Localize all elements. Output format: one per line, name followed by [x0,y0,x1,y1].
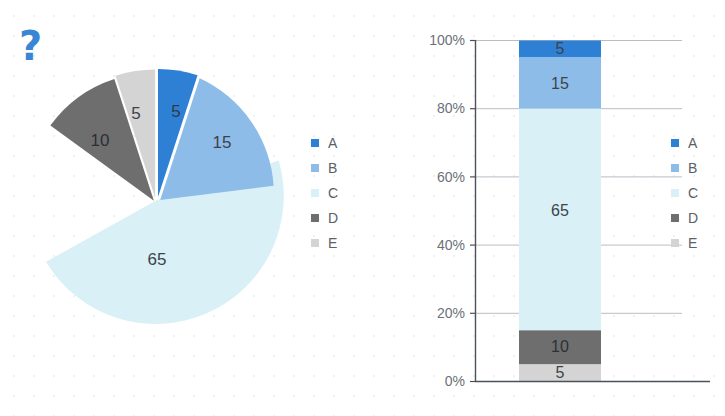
pie-value-D: 10 [91,131,110,151]
bar-value-B: 15 [551,75,569,93]
legend-swatch-E [671,239,679,247]
legend-swatch-A [671,139,679,147]
ytick-100: 100% [410,32,465,48]
legend-swatch-B [671,164,679,172]
ytick-60: 60% [410,169,465,185]
legend-label-C: C [688,186,698,200]
pie-legend-item-C[interactable]: C [311,180,338,205]
pie-value-C: 65 [148,250,167,270]
legend-swatch-A [311,139,319,147]
legend-label-C: C [328,186,338,200]
bar-legend-item-D[interactable]: D [671,205,698,230]
bar-value-D: 10 [551,338,569,356]
bar-value-C: 65 [551,202,569,220]
legend-label-A: A [688,136,697,150]
legend-swatch-C [311,189,319,197]
axis-ticks [470,41,476,382]
pie-chart-graphic [0,0,360,416]
bar-legend-item-B[interactable]: B [671,155,698,180]
bar-legend-item-E[interactable]: E [671,230,698,255]
legend-swatch-D [671,214,679,222]
bar-value-A: 5 [556,40,565,58]
legend-label-A: A [328,136,337,150]
pie-value-A: 5 [171,102,180,122]
legend-label-B: B [688,161,697,175]
bar-chart-panel: 100% 80% 60% 40% 20% 0% 5 15 65 10 5 A B… [410,0,725,416]
pie-chart-panel: ? 5 15 65 10 5 A B [0,0,360,416]
pie-value-E: 5 [131,104,140,124]
bar-legend: A B C D E [671,130,698,255]
bar-value-E: 5 [556,364,565,382]
pie-value-B: 15 [213,133,232,153]
legend-swatch-D [311,214,319,222]
ytick-0: 0% [410,373,465,389]
legend-label-B: B [328,161,337,175]
legend-label-D: D [688,211,698,225]
legend-swatch-E [311,239,319,247]
legend-swatch-C [671,189,679,197]
bar-legend-item-A[interactable]: A [671,130,698,155]
ytick-20: 20% [410,305,465,321]
legend-swatch-B [311,164,319,172]
pie-legend-item-A[interactable]: A [311,130,338,155]
ytick-40: 40% [410,237,465,253]
legend-label-E: E [688,236,697,250]
legend-label-D: D [328,211,338,225]
pie-legend-item-E[interactable]: E [311,230,338,255]
pie-legend-item-B[interactable]: B [311,155,338,180]
ytick-80: 80% [410,100,465,116]
pie-legend: A B C D E [311,130,338,255]
legend-label-E: E [328,236,337,250]
bar-legend-item-C[interactable]: C [671,180,698,205]
pie-legend-item-D[interactable]: D [311,205,338,230]
